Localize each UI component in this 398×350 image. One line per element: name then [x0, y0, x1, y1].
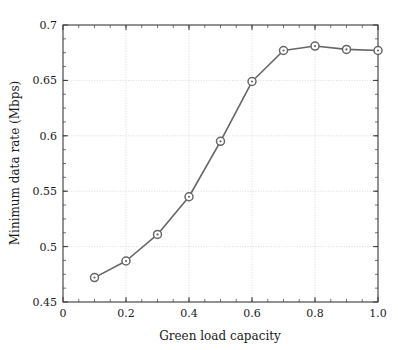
- data-point-marker: [280, 46, 288, 54]
- chart-background: [0, 0, 398, 350]
- y-tick-label: 0.6: [40, 130, 58, 143]
- y-tick-label: 0.5: [40, 241, 58, 254]
- x-tick-label: 0.8: [306, 307, 324, 320]
- x-axis-title: Green load capacity: [159, 329, 281, 343]
- data-point-marker: [343, 45, 351, 53]
- data-point-marker: [374, 46, 382, 54]
- x-tick-label: 0.4: [180, 307, 198, 320]
- x-tick-label: 1.0: [369, 307, 387, 320]
- y-axis-title: Minimum data rate (Mbps): [8, 81, 22, 245]
- x-tick-label: 0.6: [243, 307, 261, 320]
- chart-figure: 00.20.40.60.81.0 0.450.50.550.60.650.7 G…: [0, 0, 398, 350]
- line-chart: 00.20.40.60.81.0 0.450.50.550.60.650.7 G…: [0, 0, 398, 350]
- data-point-marker: [122, 257, 130, 265]
- y-tick-label: 0.7: [40, 19, 58, 32]
- x-tick-label: 0: [60, 307, 67, 320]
- data-point-marker: [91, 274, 99, 282]
- data-point-marker: [217, 137, 225, 145]
- data-point-marker: [185, 193, 193, 201]
- y-tick-label: 0.55: [33, 185, 58, 198]
- y-tick-label: 0.65: [33, 74, 58, 87]
- y-tick-label: 0.45: [33, 296, 58, 309]
- x-tick-label: 0.2: [117, 307, 135, 320]
- data-point-marker: [311, 42, 319, 50]
- data-point-marker: [154, 230, 162, 238]
- data-point-marker: [248, 78, 256, 86]
